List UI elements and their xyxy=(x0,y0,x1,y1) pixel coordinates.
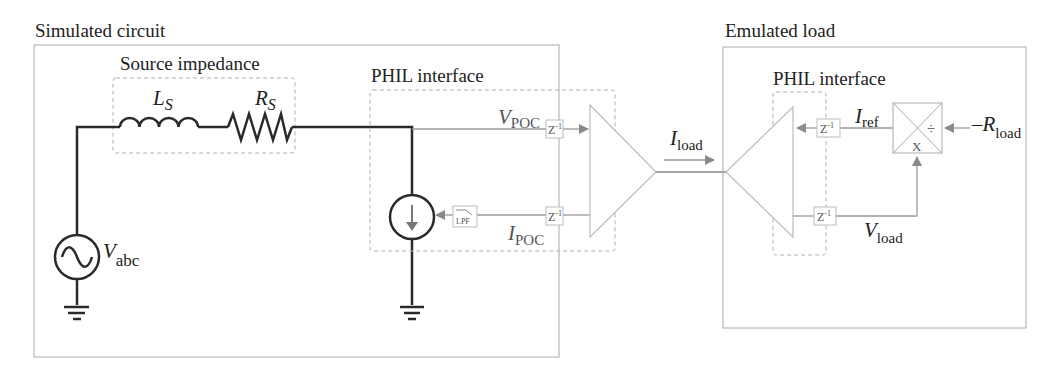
delay-block-upper-right: Z-1 xyxy=(817,119,840,137)
vload-label: Vload xyxy=(864,218,903,246)
simulated-circuit-title: Simulated circuit xyxy=(35,20,166,41)
source-impedance-title: Source impedance xyxy=(120,53,260,74)
resistor-icon xyxy=(228,114,292,140)
main-wire xyxy=(77,127,412,305)
svg-text:LPF: LPF xyxy=(456,217,470,226)
low-pass-filter-block: LPF xyxy=(453,206,477,227)
inductor-icon xyxy=(120,118,198,127)
rload-label: –Rload xyxy=(971,112,1022,141)
resistor-label: RS xyxy=(254,86,276,113)
svg-text:X: X xyxy=(912,139,922,154)
voltage-source-label: Vabc xyxy=(103,239,140,270)
amplifier-left-icon xyxy=(590,105,656,237)
inductor-label: LS xyxy=(152,86,173,113)
phil-interface-left-title: PHIL interface xyxy=(371,65,484,86)
iref-label: Iref xyxy=(854,104,879,130)
delay-block-lower-right: Z-1 xyxy=(814,207,836,225)
ipoc-label: IPOC xyxy=(507,221,544,248)
multiply-divide-block: X ÷ xyxy=(893,103,942,154)
emulated-load-title: Emulated load xyxy=(725,20,836,41)
iload-label: Iload xyxy=(669,126,703,153)
delay-block-upper-left: Z-1 xyxy=(546,120,563,138)
ground-icon-left xyxy=(64,307,89,319)
controlled-current-source-icon xyxy=(390,195,434,239)
vload-arrow-icon xyxy=(836,157,917,216)
vpoc-label: VPOC xyxy=(498,105,540,131)
svg-text:÷: ÷ xyxy=(927,121,935,137)
ac-source-icon xyxy=(55,235,99,279)
delay-block-lower-left: Z-1 xyxy=(546,207,563,225)
phil-diagram: Simulated circuit Source impedance LS RS… xyxy=(0,0,1054,370)
phil-interface-right-title: PHIL interface xyxy=(773,68,886,89)
ground-icon-right xyxy=(400,307,424,319)
amplifier-right-icon xyxy=(726,107,793,237)
